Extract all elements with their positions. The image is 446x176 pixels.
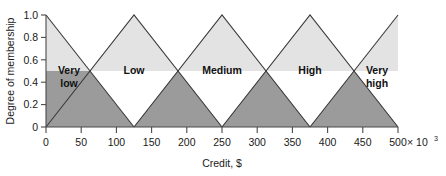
y-tick-label-0_4: 0.4 — [23, 76, 38, 88]
x-tick-label-250: 250 — [213, 136, 231, 148]
x-tick-label-100: 100 — [108, 136, 126, 148]
x-tick-label-350: 350 — [284, 136, 302, 148]
x-tick-label-300: 300 — [248, 136, 266, 148]
y-axis-title: Degree of membership — [4, 17, 16, 124]
y-tick-label-0: 0 — [32, 121, 38, 133]
category-label-very-high-line1: Very — [366, 64, 388, 76]
x-tick-label-50: 50 — [75, 136, 87, 148]
x-axis-tick-labels: 0 50 100 150 200 250 300 350 400 450 500… — [43, 134, 438, 148]
x-tick-label-200: 200 — [178, 136, 196, 148]
x-tick-label-150: 150 — [143, 136, 161, 148]
y-tick-label-1_0: 1.0 — [23, 9, 38, 21]
y-axis-tick-labels: 1.0 0.8 0.6 0.4 0.2 0 — [23, 9, 38, 133]
chart-svg: 1.0 0.8 0.6 0.4 0.2 0 0 50 100 150 200 2… — [0, 0, 446, 176]
category-label-high: High — [298, 64, 321, 76]
category-label-very-low-line1: Very — [58, 64, 80, 76]
y-tick-label-0_6: 0.6 — [23, 54, 38, 66]
category-label-very-low-line2: low — [60, 77, 78, 89]
x-axis-ticks — [46, 127, 398, 133]
category-label-low: Low — [124, 64, 146, 76]
category-label-very-high-line2: high — [366, 77, 388, 89]
y-axis-ticks — [41, 15, 46, 127]
x-axis-unit-exponent: 3 — [434, 134, 438, 143]
fuzzy-membership-chart-figure: 1.0 0.8 0.6 0.4 0.2 0 0 50 100 150 200 2… — [0, 0, 446, 176]
x-tick-label-0: 0 — [43, 136, 49, 148]
x-tick-label-500: 500 — [389, 136, 407, 148]
x-tick-label-450: 450 — [354, 136, 372, 148]
x-tick-label-400: 400 — [319, 136, 337, 148]
y-tick-label-0_8: 0.8 — [23, 31, 38, 43]
x-axis-title: Credit, $ — [202, 157, 242, 169]
category-label-medium: Medium — [202, 64, 242, 76]
y-tick-label-0_2: 0.2 — [23, 98, 38, 110]
x-axis-unit-multiplier: × 10 — [407, 136, 428, 148]
